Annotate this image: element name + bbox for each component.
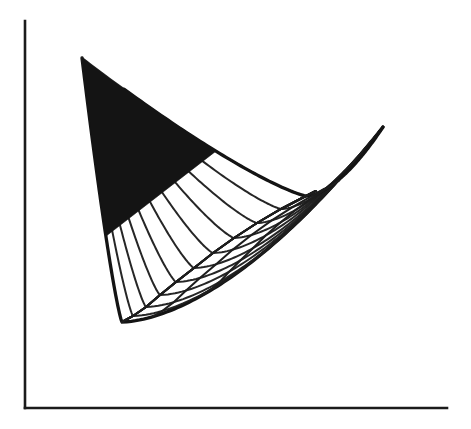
plot-svg bbox=[0, 0, 471, 429]
figure-canvas bbox=[0, 0, 471, 429]
figure-background bbox=[0, 0, 471, 429]
